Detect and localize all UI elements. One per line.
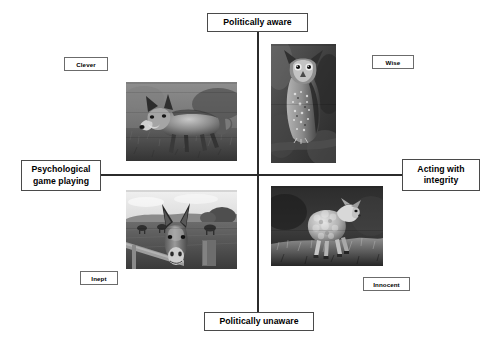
axis-label-acting-with-integrity[interactable]: Acting with integrity (402, 159, 480, 191)
axis-label-right-text-line2: integrity (424, 175, 459, 187)
quadrant-label-inept-text: Inept (91, 275, 106, 282)
axis-label-top-text: Politically aware (223, 17, 291, 29)
lamb-photo (271, 186, 383, 266)
axis-label-psychological-game-playing[interactable]: Psychological game playing (21, 160, 101, 191)
quadrant-label-innocent[interactable]: Innocent (363, 277, 410, 291)
donkey-photo (126, 190, 237, 269)
axis-label-right-text-line1: Acting with (417, 164, 464, 176)
fox-photo (126, 82, 237, 161)
quadrant-label-wise-text: Wise (386, 59, 401, 66)
axis-label-bottom-text: Politically unaware (219, 316, 298, 328)
horizontal-axis-line (100, 174, 403, 176)
quadrant-label-clever-text: Clever (76, 61, 96, 68)
quadrant-label-inept[interactable]: Inept (80, 271, 118, 285)
axis-label-left-text-line1: Psychological (31, 164, 90, 176)
quadrant-label-clever[interactable]: Clever (64, 57, 108, 71)
quadrant-label-innocent-text: Innocent (373, 281, 400, 288)
axis-label-politically-unaware[interactable]: Politically unaware (204, 312, 314, 331)
quadrant-diagram-canvas: Politically aware Politically unaware Ps… (0, 0, 493, 352)
owl-photo (271, 44, 336, 163)
vertical-axis-line (257, 32, 259, 312)
axis-label-politically-aware[interactable]: Politically aware (207, 13, 308, 32)
axis-label-left-text-line2: game playing (33, 176, 89, 188)
quadrant-label-wise[interactable]: Wise (372, 55, 414, 69)
